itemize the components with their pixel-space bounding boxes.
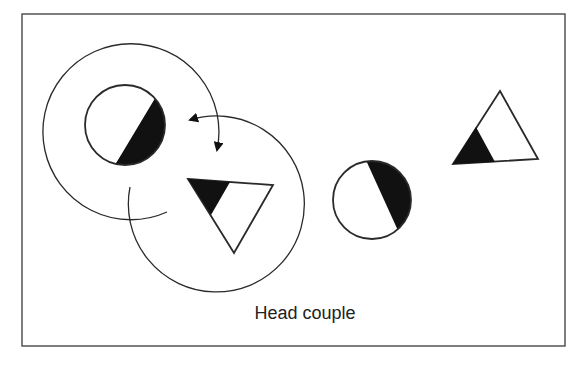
dancer-triangle-right-icon	[453, 91, 538, 164]
dancer-triangle-center-icon	[188, 179, 273, 253]
figure-frame	[22, 14, 565, 346]
head-couple-diagram: Head couple	[0, 0, 583, 365]
dancer-circle-right-icon	[333, 140, 430, 260]
dancer-circle-left-icon	[60, 60, 200, 200]
diagram-canvas: Head couple	[0, 0, 583, 365]
figure-caption: Head couple	[254, 303, 355, 323]
